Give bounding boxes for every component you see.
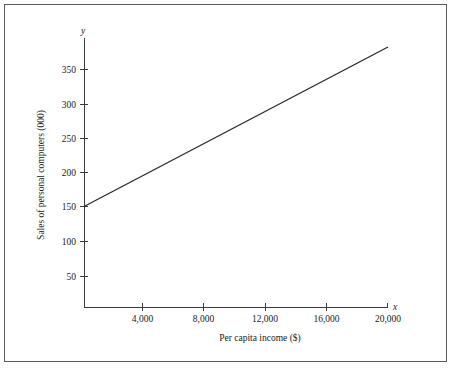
x-tick-label-20000: 20,000 (375, 314, 401, 324)
y-tick-label-350: 350 (62, 65, 77, 75)
x-tick-label-12000: 12,000 (252, 314, 278, 324)
x-tick-label-16000: 16,000 (313, 314, 339, 324)
line-chart: 350 300 250 200 150 100 50 4,000 8,000 1… (0, 0, 455, 372)
y-tick-label-100: 100 (62, 237, 77, 247)
regression-line (84, 47, 388, 207)
x-axis-title: Per capita income ($) (219, 333, 301, 344)
y-tick-label-50: 50 (67, 272, 77, 282)
x-axis-variable-symbol: x (392, 302, 398, 312)
figure-root: 350 300 250 200 150 100 50 4,000 8,000 1… (0, 0, 455, 372)
x-tick-label-8000: 8,000 (193, 314, 215, 324)
y-axis-title: Sales of personal computers (000) (36, 110, 47, 240)
y-tick-label-250: 250 (62, 134, 77, 144)
y-tick-label-300: 300 (62, 100, 77, 110)
y-tick-label-150: 150 (62, 202, 77, 212)
y-tick-label-200: 200 (62, 168, 77, 178)
y-axis-variable-symbol: y (80, 26, 86, 36)
x-tick-label-4000: 4,000 (132, 314, 154, 324)
